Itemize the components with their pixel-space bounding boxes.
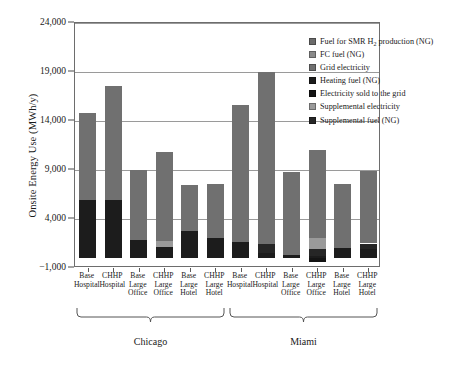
y-axis-ticks: −1,0004,0009,00014,00019,00024,000 [0,0,74,289]
bar-segment [258,244,275,253]
legend-label: Electricity sold to the grid [320,88,406,99]
legend-item[interactable]: FC fuel (NG) [309,49,461,61]
bar-segment [181,185,198,231]
bar-segment [258,253,275,258]
legend-swatch-icon [309,51,316,58]
x-axis-category-labels: Base HospitalCHHP HospitalBase Large Off… [74,272,380,306]
y-tick-label: 4,000 [0,213,66,223]
bar-segment [207,238,224,259]
legend-item[interactable]: Fuel for SMR H2 production (NG) [309,36,461,48]
bar[interactable] [181,23,198,268]
bar-segment [309,150,326,237]
legend-item[interactable]: Electricity sold to the grid [309,88,461,100]
legend-swatch-icon [309,77,316,84]
legend-item[interactable]: Supplemental fuel (NG) [309,115,461,127]
legend-item[interactable]: Heating fuel (NG) [309,75,461,87]
legend-label: Grid electricity [320,62,370,73]
chart-figure: Onsite Energy Use (MWh/y) −1,0004,0009,0… [0,0,463,376]
bar-segment [79,200,96,258]
group-brace [76,308,225,324]
legend-item[interactable]: Supplemental electricity [309,101,461,113]
bar-segment [130,170,147,240]
bar-segment [207,184,224,238]
legend-swatch-icon [309,117,316,124]
bar[interactable] [105,23,122,268]
group-label: Chicago [76,336,225,347]
y-tick-label: 14,000 [0,115,66,125]
legend-swatch-icon [309,38,316,45]
legend-swatch-icon [309,103,316,110]
bar-segment [334,248,351,258]
bar-segment [105,200,122,258]
bar-segment [309,238,326,250]
y-tick-label: 24,000 [0,17,66,27]
bar-segment [156,247,173,258]
legend-swatch-icon [309,64,316,71]
bar-segment-negative [309,258,326,262]
legend-label: Supplemental fuel (NG) [320,115,399,126]
y-tick-label: −1,000 [0,262,66,272]
bar-segment [258,72,275,244]
legend-swatch-icon [309,90,316,97]
group-braces [74,308,380,332]
bar-segment [283,172,300,255]
legend-label: Supplemental electricity [320,101,400,112]
x-category-label: CHHP Large Hotel [345,272,389,298]
bar-segment [156,152,173,240]
legend-item[interactable]: Grid electricity [309,62,461,74]
bar-segment [360,249,377,258]
bar-segment [309,249,326,256]
group-label: Miami [229,336,378,347]
bar[interactable] [79,23,96,268]
bar-segment [334,184,351,249]
bar-segment [360,171,377,244]
legend-label: Heating fuel (NG) [320,75,380,86]
legend-label: Fuel for SMR H2 production (NG) [320,36,433,48]
bar[interactable] [130,23,147,268]
legend-label: FC fuel (NG) [320,49,364,60]
bar[interactable] [258,23,275,268]
bar-segment [130,240,147,259]
bar-segment [232,242,249,259]
bar-segment [283,255,300,258]
bar-segment [156,241,173,248]
y-tick-label: 19,000 [0,66,66,76]
bar-segment [360,244,377,250]
chart-legend: Fuel for SMR H2 production (NG)FC fuel (… [309,36,461,128]
bar-segment [232,105,249,241]
y-tick-label: 9,000 [0,164,66,174]
bar-segment [181,231,198,258]
bar[interactable] [156,23,173,268]
bar-segment [105,86,122,201]
bar[interactable] [232,23,249,268]
bar-segment [79,113,96,200]
group-brace [229,308,378,324]
bar[interactable] [207,23,224,268]
bar[interactable] [283,23,300,268]
